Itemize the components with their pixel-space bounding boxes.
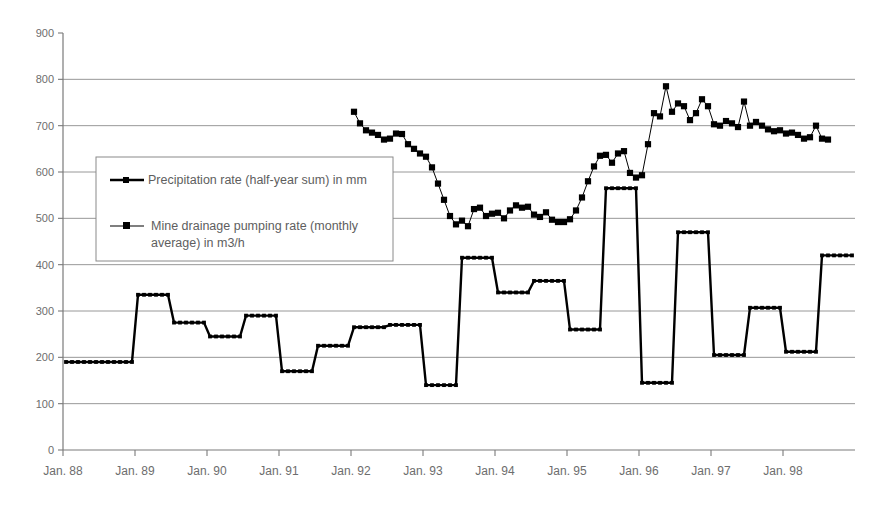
precipitation-marker — [406, 323, 410, 327]
precipitation-marker — [442, 383, 446, 387]
precipitation-marker — [268, 314, 272, 318]
precipitation-marker — [274, 314, 278, 318]
precipitation-marker — [208, 335, 212, 339]
precipitation-marker — [262, 314, 266, 318]
precipitation-marker — [490, 256, 494, 260]
pumping-marker — [441, 197, 447, 203]
precipitation-marker — [562, 279, 566, 283]
pumping-marker — [723, 118, 729, 124]
pumping-marker — [681, 103, 687, 109]
pumping-marker — [693, 110, 699, 116]
precipitation-marker — [568, 328, 572, 332]
pumping-marker — [435, 180, 441, 186]
precipitation-marker — [784, 350, 788, 354]
pumping-marker — [651, 110, 657, 116]
precipitation-marker — [70, 360, 74, 364]
precipitation-marker — [238, 335, 242, 339]
precipitation-marker — [814, 350, 818, 354]
y-tick-label-100: 100 — [36, 398, 54, 410]
series-mine-drainage-pumping-rate — [351, 83, 831, 229]
y-tick-label-300: 300 — [36, 305, 54, 317]
precipitation-marker — [748, 306, 752, 310]
precipitation-marker — [310, 369, 314, 373]
precipitation-marker — [514, 291, 518, 295]
precipitation-marker — [754, 306, 758, 310]
precipitation-marker — [520, 291, 524, 295]
precipitation-marker — [580, 328, 584, 332]
precipitation-marker — [94, 360, 98, 364]
pumping-marker — [771, 128, 777, 134]
pumping-marker — [597, 153, 603, 159]
precipitation-marker — [304, 369, 308, 373]
precipitation-marker — [292, 369, 296, 373]
pumping-marker — [783, 130, 789, 136]
precipitation-marker — [730, 353, 734, 357]
y-tick-label-600: 600 — [36, 166, 54, 178]
pumping-marker — [507, 207, 513, 213]
precipitation-marker — [850, 254, 854, 258]
precipitation-marker — [802, 350, 806, 354]
pumping-marker — [825, 136, 831, 142]
precipitation-marker — [196, 321, 200, 325]
x-tick-label-5: Jan. 93 — [403, 464, 443, 478]
precipitation-marker — [76, 360, 80, 364]
precipitation-marker — [742, 353, 746, 357]
precipitation-marker — [322, 344, 326, 348]
precipitation-marker — [664, 381, 668, 385]
pumping-marker — [807, 134, 813, 140]
y-tick-label-0: 0 — [48, 444, 54, 456]
precipitation-marker — [178, 321, 182, 325]
pumping-marker — [423, 154, 429, 160]
precipitation-marker — [556, 279, 560, 283]
pumping-marker — [753, 119, 759, 125]
legend-label-pumping-line1: Mine drainage pumping rate (monthly — [151, 219, 359, 233]
precipitation-marker — [286, 369, 290, 373]
legend: Precipitation rate (half-year sum) in mm… — [96, 157, 393, 261]
precipitation-marker — [622, 186, 626, 190]
precipitation-marker — [316, 344, 320, 348]
precipitation-marker — [184, 321, 188, 325]
pumping-marker — [369, 130, 375, 136]
precipitation-marker — [418, 323, 422, 327]
pumping-marker — [717, 123, 723, 129]
y-tick-label-400: 400 — [36, 259, 54, 271]
precipitation-and-mine-drainage-chart: 0100200300400500600700800900 Jan. 88Jan.… — [0, 0, 890, 506]
precipitation-marker — [724, 353, 728, 357]
y-tick-label-700: 700 — [36, 120, 54, 132]
pumping-marker — [579, 194, 585, 200]
pumping-marker — [591, 163, 597, 169]
precipitation-marker — [124, 360, 128, 364]
pumping-marker — [645, 141, 651, 147]
pumping-marker — [603, 152, 609, 158]
pumping-marker — [747, 123, 753, 129]
precipitation-marker — [766, 306, 770, 310]
x-tick-label-3: Jan. 91 — [259, 464, 299, 478]
pumping-marker — [711, 121, 717, 127]
pumping-marker — [639, 172, 645, 178]
pumping-marker — [609, 160, 615, 166]
precipitation-marker — [328, 344, 332, 348]
pumping-marker — [387, 136, 393, 142]
precipitation-marker — [88, 360, 92, 364]
precipitation-marker — [796, 350, 800, 354]
y-tick-label-900: 900 — [36, 27, 54, 39]
x-tick-label-1: Jan. 89 — [115, 464, 155, 478]
precipitation-marker — [526, 291, 530, 295]
precipitation-marker — [166, 293, 170, 297]
pumping-marker — [363, 127, 369, 133]
precipitation-marker — [574, 328, 578, 332]
pumping-marker — [549, 217, 555, 223]
pumping-marker — [789, 130, 795, 136]
precipitation-marker — [820, 254, 824, 258]
precipitation-marker — [118, 360, 122, 364]
precipitation-marker — [616, 186, 620, 190]
precipitation-marker — [232, 335, 236, 339]
pumping-marker — [741, 98, 747, 104]
precipitation-marker — [340, 344, 344, 348]
precipitation-marker — [220, 335, 224, 339]
precipitation-marker — [364, 325, 368, 329]
x-tick-label-8: Jan. 96 — [619, 464, 659, 478]
precipitation-marker — [610, 186, 614, 190]
precipitation-marker — [142, 293, 146, 297]
precipitation-marker — [778, 306, 782, 310]
